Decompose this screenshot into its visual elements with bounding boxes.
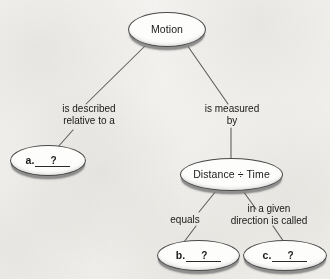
node-distance-time[interactable]: Distance ÷ Time bbox=[180, 158, 283, 191]
answer-a-letter: a. bbox=[26, 154, 35, 166]
node-answer-b[interactable]: b. ? bbox=[157, 240, 240, 271]
concept-map-figure: Motion a. ? Distance ÷ Time b. ? c. ? is… bbox=[0, 0, 330, 279]
edge-line-motion-to-distance bbox=[187, 45, 228, 104]
edge-label-distance-to-c-line1: in a given bbox=[213, 203, 325, 215]
edge-label-motion-to-a-line2: relative to a bbox=[41, 115, 137, 127]
edge-label-distance-to-c: in a given direction is called bbox=[213, 203, 325, 226]
answer-blank-a: a. ? bbox=[26, 154, 71, 167]
edge-label-motion-to-distance-line1: is measured bbox=[189, 103, 275, 115]
edge-line-motion-to-a bbox=[86, 45, 146, 104]
answer-b-letter: b. bbox=[176, 249, 186, 261]
node-answer-a[interactable]: a. ? bbox=[10, 145, 86, 176]
edge-label-distance-to-b: equals bbox=[158, 214, 212, 226]
answer-c-letter: c. bbox=[263, 249, 272, 261]
edge-label-motion-to-distance: is measured by bbox=[189, 103, 275, 126]
node-motion-label: Motion bbox=[151, 24, 183, 35]
node-answer-c[interactable]: c. ? bbox=[243, 240, 327, 271]
answer-b-value: ? bbox=[186, 250, 221, 262]
answer-c-value: ? bbox=[272, 250, 307, 262]
edge-label-motion-to-a-line1: is described bbox=[41, 103, 137, 115]
edge-label-motion-to-distance-line2: by bbox=[189, 115, 275, 127]
edge-label-distance-to-c-line2: direction is called bbox=[213, 215, 325, 227]
node-motion[interactable]: Motion bbox=[128, 12, 206, 47]
answer-blank-b: b. ? bbox=[176, 249, 222, 262]
answer-a-value: ? bbox=[35, 155, 70, 167]
node-distance-time-label: Distance ÷ Time bbox=[193, 169, 270, 180]
answer-blank-c: c. ? bbox=[263, 249, 308, 262]
edge-label-distance-to-b-line1: equals bbox=[158, 214, 212, 226]
edge-label-motion-to-a: is described relative to a bbox=[41, 103, 137, 126]
